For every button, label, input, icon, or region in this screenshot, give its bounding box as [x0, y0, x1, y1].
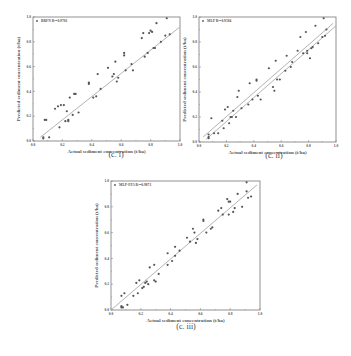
data-point — [174, 255, 176, 257]
legend-marker-icon — [114, 184, 116, 186]
data-point — [60, 104, 62, 106]
y-tick-label: 0.2 — [105, 282, 110, 286]
fit-line — [111, 185, 257, 310]
data-point — [245, 190, 247, 192]
x-tick-label: 0.4 — [90, 143, 95, 147]
data-point — [123, 54, 125, 56]
data-point — [205, 232, 207, 234]
data-point — [64, 120, 66, 122]
data-point — [147, 283, 149, 285]
data-point — [220, 207, 222, 209]
data-point — [192, 228, 194, 230]
caption-c-i: (c. i) — [96, 150, 136, 159]
data-point — [255, 78, 257, 80]
data-point — [232, 211, 234, 213]
data-point — [174, 246, 176, 248]
data-point — [324, 35, 326, 37]
data-point — [63, 104, 65, 106]
scatter-plot: 0.00.20.40.60.81.00.00.20.40.60.81.0MLP-… — [85, 179, 264, 328]
data-point — [189, 241, 191, 243]
data-point — [149, 266, 151, 268]
y-tick-label: 0.4 — [27, 90, 32, 94]
data-point — [195, 242, 197, 244]
data-point — [314, 25, 316, 27]
data-point — [164, 35, 166, 37]
x-tick-label: 0.4 — [168, 312, 173, 316]
data-point — [325, 28, 327, 30]
data-point — [290, 66, 292, 68]
data-point — [275, 60, 277, 62]
data-point — [306, 50, 308, 52]
data-point — [147, 52, 149, 54]
data-point — [305, 31, 307, 33]
data-point — [211, 226, 213, 228]
y-tick-label: 0.0 — [27, 139, 32, 143]
y-tick-label: 1.0 — [193, 15, 198, 19]
data-point — [48, 136, 50, 138]
data-point — [236, 96, 238, 98]
data-point — [138, 279, 140, 281]
data-point — [153, 264, 155, 266]
scatter-plot: 0.00.20.40.60.81.00.00.20.40.60.81.0MLP … — [173, 15, 340, 160]
data-point — [57, 105, 59, 107]
data-point — [213, 132, 215, 134]
data-point — [317, 42, 319, 44]
data-point — [299, 36, 301, 38]
data-point — [155, 22, 157, 24]
data-point — [291, 61, 293, 63]
data-point — [95, 95, 97, 97]
data-point — [155, 281, 157, 283]
data-point — [54, 108, 56, 110]
x-tick-label: 0.6 — [198, 312, 203, 316]
data-point — [235, 116, 237, 118]
data-point — [92, 97, 94, 99]
data-point — [114, 61, 116, 63]
data-point — [178, 250, 180, 252]
data-point — [75, 93, 77, 95]
legend-label: BRFN R²=0.9701 — [41, 19, 67, 23]
y-tick-label: 0.4 — [193, 90, 198, 94]
data-point — [158, 273, 160, 275]
data-point — [250, 195, 252, 197]
data-point — [276, 78, 278, 80]
data-point — [151, 31, 153, 33]
data-point — [45, 119, 47, 121]
data-point — [120, 295, 122, 297]
data-point — [217, 210, 219, 212]
data-point — [238, 90, 240, 92]
data-point — [237, 193, 239, 195]
y-tick-label: 0.8 — [193, 40, 198, 44]
chart-panel-c-iii: 0.00.20.40.60.81.00.00.20.40.60.81.0MLP-… — [85, 179, 264, 328]
data-point — [222, 213, 224, 215]
data-point — [116, 80, 118, 82]
data-point — [245, 181, 247, 183]
y-tick-label: 1.0 — [105, 179, 110, 183]
plot-frame — [199, 17, 336, 142]
data-point — [232, 110, 234, 112]
data-point — [268, 67, 270, 69]
caption-c-iii: (c. iii) — [164, 322, 208, 331]
x-tick-label: 0.6 — [279, 144, 284, 148]
data-point — [113, 73, 115, 75]
x-tick-label: 0.8 — [148, 143, 153, 147]
data-point — [302, 52, 304, 54]
data-point — [111, 75, 113, 77]
data-point — [223, 127, 225, 129]
data-point — [226, 198, 228, 200]
y-tick-label: 0.2 — [193, 115, 198, 119]
chart-panel-c-ii: 0.00.20.40.60.81.00.00.20.40.60.81.0MLP … — [173, 15, 340, 160]
data-point — [135, 282, 137, 284]
data-point — [160, 41, 162, 43]
data-point — [227, 106, 229, 108]
data-point — [58, 126, 60, 128]
data-point — [210, 117, 212, 119]
data-point — [234, 207, 236, 209]
y-tick-label: 0.0 — [193, 140, 198, 144]
legend-label: MLP R²=0.9584 — [207, 19, 231, 23]
plot-frame — [33, 17, 180, 141]
data-point — [228, 213, 230, 215]
data-point — [241, 206, 243, 208]
data-point — [207, 136, 209, 138]
data-point — [306, 52, 308, 54]
y-tick-label: 0.8 — [27, 40, 32, 44]
